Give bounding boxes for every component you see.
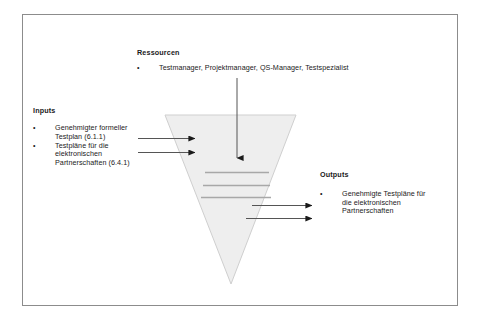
outputs-item-text: Genehmigte Testpläne für die elektronisc… [342,190,434,216]
inverted-triangle-shape [165,115,296,284]
list-item: • Genehmigte Testpläne für die elektroni… [320,190,434,216]
outputs-block: Outputs • Genehmigte Testpläne für die e… [320,170,434,216]
inputs-item-text-1: Genehmigter formeller Testplan (6.1.1) [55,124,139,141]
list-item: • Genehmigter formeller Testplan (6.1.1) [33,124,139,141]
resources-list: • Testmanager, Projektmanager, QS-Manage… [137,64,349,73]
inputs-heading: Inputs [33,106,139,115]
bullet-icon: • [33,124,55,133]
bullet-icon: • [320,190,342,199]
inputs-item-text-2: Testpläne für die elektronischen Partner… [55,142,139,168]
resources-heading: Ressourcen [137,48,349,57]
diagram-canvas: Ressourcen • Testmanager, Projektmanager… [0,0,481,325]
bullet-icon: • [137,64,159,73]
outputs-heading: Outputs [320,170,434,179]
list-item: • Testpläne für die elektronischen Partn… [33,142,139,168]
outputs-list: • Genehmigte Testpläne für die elektroni… [320,190,434,216]
inputs-list: • Genehmigter formeller Testplan (6.1.1)… [33,124,139,167]
inputs-block: Inputs • Genehmigter formeller Testplan … [33,106,139,167]
resources-block: Ressourcen • Testmanager, Projektmanager… [137,48,349,73]
list-item: • Testmanager, Projektmanager, QS-Manage… [137,64,349,73]
resources-item-text: Testmanager, Projektmanager, QS-Manager,… [159,64,349,73]
bullet-icon: • [33,142,55,151]
